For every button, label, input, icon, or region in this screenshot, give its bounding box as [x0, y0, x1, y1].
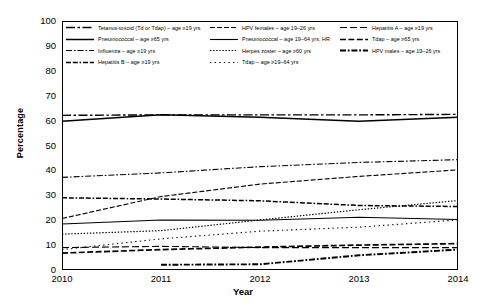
legend-item: Pneumococcal – age 19–64 yrs, HR — [210, 34, 330, 46]
legend-label: Influenza – age ≥19 yrs — [98, 48, 155, 54]
y-tick-label: 60 — [30, 116, 56, 126]
y-tick-label: 80 — [30, 66, 56, 76]
legend-key-icon — [66, 58, 94, 67]
legend-item: Hepatitis B – age ≥19 yrs — [66, 57, 201, 69]
y-tick-label: 100 — [30, 16, 56, 26]
legend-label: Pneumococcal – age 19–64 yrs, HR — [242, 36, 330, 42]
legend-label: Hepatitis B – age ≥19 yrs — [98, 59, 159, 65]
legend-label: Herpes zoster – age ≥60 yrs — [242, 48, 311, 54]
x-tick-label: 2014 — [438, 274, 478, 284]
legend-label: Tdap – age ≥19–64 yrs — [242, 59, 298, 65]
x-axis-label: Year — [0, 286, 486, 297]
y-tick-label: 40 — [30, 165, 56, 175]
legend-item: Pneumococcal – age ≥65 yrs — [66, 34, 201, 46]
y-tick-label: 20 — [30, 215, 56, 225]
legend-key-icon — [66, 46, 94, 55]
legend-item: Tetanus-toxoid (Td or Tdap) – age ≥19 yr… — [66, 22, 201, 34]
legend-item: HPV females – age 19–26 yrs — [210, 22, 330, 34]
y-axis-label: Percentage — [15, 93, 25, 173]
legend-item: Influenza – age ≥19 yrs — [66, 45, 201, 57]
legend-key-icon — [210, 35, 238, 44]
legend-item: Hepatitis A – age ≥19 yrs — [340, 22, 440, 34]
legend-column: HPV females – age 19–26 yrsPneumococcal … — [210, 22, 330, 68]
chart-figure: Percentage Year 0102030405060708090100 2… — [0, 0, 486, 305]
series-line — [62, 244, 458, 253]
legend-column: Hepatitis A – age ≥19 yrsTdap – age ≥65 … — [340, 22, 440, 57]
legend-key-icon — [340, 35, 368, 44]
legend-key-icon — [210, 23, 238, 32]
legend-item: HPV males – age 19–26 yrs — [340, 45, 440, 57]
x-tick-label: 2013 — [339, 274, 379, 284]
series-line — [62, 114, 458, 115]
series-line — [62, 170, 458, 219]
y-tick-label: 90 — [30, 41, 56, 51]
x-tick-label: 2010 — [42, 274, 82, 284]
legend-key-icon — [340, 46, 368, 55]
legend-label: Tetanus-toxoid (Td or Tdap) – age ≥19 yr… — [98, 25, 201, 31]
legend-key-icon — [210, 46, 238, 55]
x-tick-label: 2011 — [141, 274, 181, 284]
legend-item: Tdap – age ≥19–64 yrs — [210, 57, 330, 69]
legend-item: Herpes zoster – age ≥60 yrs — [210, 45, 330, 57]
legend-key-icon — [340, 23, 368, 32]
legend-label: Pneumococcal – age ≥65 yrs — [98, 36, 169, 42]
legend-key-icon — [66, 35, 94, 44]
series-line — [62, 160, 458, 178]
legend-item: Tdap – age ≥65 yrs — [340, 34, 440, 46]
legend-label: HPV females – age 19–26 yrs — [242, 25, 315, 31]
series-line — [62, 217, 458, 224]
legend-key-icon — [66, 23, 94, 32]
x-tick-label: 2012 — [240, 274, 280, 284]
chart-legend: Tetanus-toxoid (Td or Tdap) – age ≥19 yr… — [64, 22, 456, 68]
series-line — [62, 115, 458, 121]
y-tick-label: 30 — [30, 190, 56, 200]
legend-label: Hepatitis A – age ≥19 yrs — [372, 25, 433, 31]
y-tick-label: 10 — [30, 240, 56, 250]
y-tick-label: 70 — [30, 91, 56, 101]
legend-column: Tetanus-toxoid (Td or Tdap) – age ≥19 yr… — [66, 22, 201, 68]
legend-label: HPV males – age 19–26 yrs — [372, 48, 440, 54]
legend-key-icon — [210, 58, 238, 67]
series-line — [161, 250, 458, 265]
y-tick-label: 50 — [30, 141, 56, 151]
legend-label: Tdap – age ≥65 yrs — [372, 36, 419, 42]
